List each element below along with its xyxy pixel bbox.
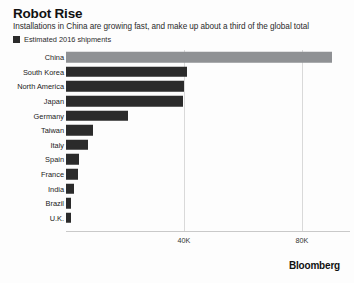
- page-title: Robot Rise: [13, 6, 82, 21]
- category-label: North America: [17, 82, 64, 91]
- category-label: India: [48, 184, 64, 193]
- legend-swatch-icon: [13, 36, 20, 43]
- x-tick-label: 40K: [178, 236, 191, 245]
- bar[interactable]: [66, 183, 74, 194]
- legend-item-label: Estimated 2016 shipments: [24, 35, 111, 44]
- bar-row: France: [0, 167, 354, 182]
- bar-row: North America: [0, 79, 354, 94]
- bar-row: Spain: [0, 152, 354, 167]
- category-label: U.K.: [50, 213, 64, 222]
- bar[interactable]: [66, 110, 128, 121]
- category-label: Brazil: [46, 199, 64, 208]
- category-label: China: [45, 53, 64, 62]
- bar[interactable]: [66, 140, 88, 151]
- category-label: Germany: [34, 111, 64, 120]
- x-tick-label: 80K: [296, 236, 309, 245]
- x-axis-ticks: 40K80K: [0, 236, 354, 250]
- chart-legend: Estimated 2016 shipments: [13, 35, 111, 44]
- bar[interactable]: [66, 81, 184, 92]
- bar-row: South Korea: [0, 65, 354, 80]
- bar-row: Germany: [0, 108, 354, 123]
- bar-row: Italy: [0, 138, 354, 153]
- category-label: Japan: [44, 97, 64, 106]
- bar-row: Taiwan: [0, 123, 354, 138]
- bar-row: Japan: [0, 94, 354, 109]
- category-label: South Korea: [23, 67, 64, 76]
- chart-page: Robot Rise Installations in China are gr…: [0, 0, 354, 283]
- plot-area: ChinaSouth KoreaNorth AmericaJapanGerman…: [0, 50, 354, 235]
- bar[interactable]: [66, 67, 187, 78]
- category-label: Taiwan: [41, 126, 64, 135]
- bar[interactable]: [66, 198, 71, 209]
- category-label: Spain: [45, 155, 64, 164]
- bar[interactable]: [66, 52, 332, 63]
- bar[interactable]: [66, 154, 79, 165]
- bar[interactable]: [66, 213, 71, 224]
- bar-row: India: [0, 181, 354, 196]
- page-subtitle: Installations in China are growing fast,…: [13, 22, 309, 31]
- category-label: Italy: [50, 140, 64, 149]
- bar[interactable]: [66, 169, 78, 180]
- bar-row: China: [0, 50, 354, 65]
- bar[interactable]: [66, 125, 93, 136]
- axis-baseline: [66, 231, 350, 232]
- category-label: France: [41, 170, 64, 179]
- bar-row: U.K.: [0, 211, 354, 226]
- bar[interactable]: [66, 96, 183, 107]
- bloomberg-logo: Bloomberg: [289, 260, 340, 271]
- bar-rows: ChinaSouth KoreaNorth AmericaJapanGerman…: [0, 50, 354, 225]
- bar-row: Brazil: [0, 196, 354, 211]
